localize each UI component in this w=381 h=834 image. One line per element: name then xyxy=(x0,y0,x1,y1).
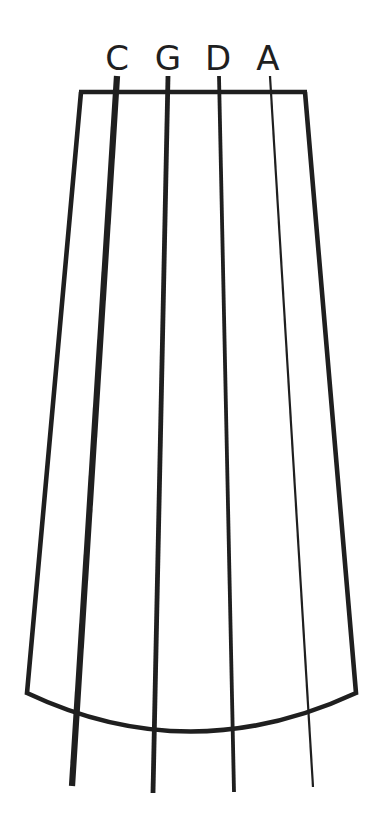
string-label-d: D xyxy=(205,38,231,78)
fingerboard-diagram: C G D A xyxy=(0,0,381,834)
fingerboard-svg: C G D A xyxy=(0,0,381,834)
string-label-a: A xyxy=(256,38,279,78)
string-label-g: G xyxy=(155,38,181,78)
string-label-c: C xyxy=(105,38,129,78)
